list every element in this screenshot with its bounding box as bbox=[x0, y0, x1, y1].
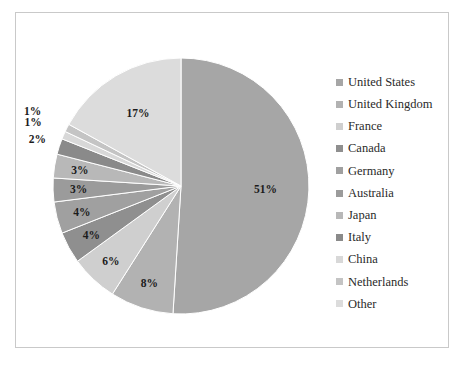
pie-slice-value-label: 17% bbox=[127, 107, 150, 119]
legend-swatch-icon bbox=[336, 256, 343, 263]
legend-swatch-icon bbox=[336, 79, 343, 86]
legend-item[interactable]: United Kingdom bbox=[336, 93, 448, 115]
legend-item[interactable]: China bbox=[336, 249, 448, 271]
legend-item[interactable]: France bbox=[336, 115, 448, 137]
legend-item-label: Other bbox=[348, 298, 376, 311]
legend-item-label: Italy bbox=[348, 231, 371, 244]
pie-slice[interactable] bbox=[173, 58, 309, 314]
pie-slice-value-label: 2% bbox=[29, 133, 46, 145]
legend-item-label: United Kingdom bbox=[348, 98, 432, 111]
legend-item-label: Germany bbox=[348, 165, 395, 178]
pie-chart-svg: 51%8%6%4%4%3%3%2%1%1%17% bbox=[16, 13, 336, 349]
pie-slice-value-label: 8% bbox=[141, 277, 158, 289]
pie-slice-value-label: 4% bbox=[83, 229, 100, 241]
legend-swatch-icon bbox=[336, 190, 343, 197]
legend-item[interactable]: Australia bbox=[336, 182, 448, 204]
legend-swatch-icon bbox=[336, 145, 343, 152]
pie-slice-value-label: 3% bbox=[70, 183, 87, 195]
legend-item[interactable]: Netherlands bbox=[336, 271, 448, 293]
legend-item-label: United States bbox=[348, 76, 415, 89]
legend-item-label: Japan bbox=[348, 209, 376, 222]
legend-item-label: Australia bbox=[348, 187, 394, 200]
legend-item-label: France bbox=[348, 120, 382, 133]
legend-swatch-icon bbox=[336, 234, 343, 241]
legend-swatch-icon bbox=[336, 123, 343, 130]
pie-chart-area: 51%8%6%4%4%3%3%2%1%1%17% bbox=[16, 13, 336, 349]
pie-slice-value-label: 1% bbox=[24, 105, 41, 117]
legend-item[interactable]: Germany bbox=[336, 160, 448, 182]
legend-item-label: Canada bbox=[348, 142, 385, 155]
pie-slice-value-label: 1% bbox=[24, 116, 41, 128]
pie-slice-value-label: 6% bbox=[102, 255, 119, 267]
pie-slice-value-label: 4% bbox=[73, 206, 90, 218]
pie-slice-value-label: 3% bbox=[71, 164, 88, 176]
chart-frame: 51%8%6%4%4%3%3%2%1%1%17% United StatesUn… bbox=[15, 12, 449, 348]
legend-swatch-icon bbox=[336, 101, 343, 108]
legend-item[interactable]: Italy bbox=[336, 226, 448, 248]
legend-item[interactable]: Canada bbox=[336, 138, 448, 160]
pie-slice-value-label: 51% bbox=[254, 183, 277, 195]
legend-swatch-icon bbox=[336, 300, 343, 307]
legend-item-label: Netherlands bbox=[348, 276, 408, 289]
chart-legend: United StatesUnited KingdomFranceCanadaG… bbox=[336, 71, 448, 315]
legend-swatch-icon bbox=[336, 212, 343, 219]
legend-item[interactable]: Other bbox=[336, 293, 448, 315]
legend-item[interactable]: United States bbox=[336, 71, 448, 93]
legend-item-label: China bbox=[348, 253, 378, 266]
legend-swatch-icon bbox=[336, 167, 343, 174]
legend-swatch-icon bbox=[336, 278, 343, 285]
legend-item[interactable]: Japan bbox=[336, 204, 448, 226]
